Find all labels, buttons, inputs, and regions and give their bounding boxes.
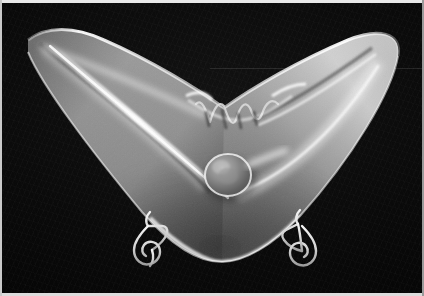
left-stand-foot: [150, 250, 153, 266]
knob-inner-ring: [218, 168, 238, 184]
photograph-frame: [0, 0, 424, 296]
bowl-grain: [0, 0, 424, 296]
left-stand-scroll: [134, 226, 160, 264]
bowl-body: [0, 0, 424, 296]
right-stand-scroll: [290, 226, 316, 265]
bowl-object-layer: [0, 0, 424, 296]
right-stand-post: [298, 224, 302, 251]
